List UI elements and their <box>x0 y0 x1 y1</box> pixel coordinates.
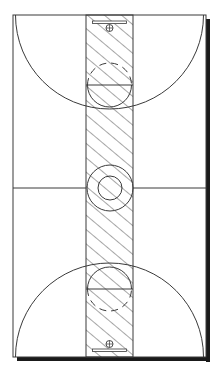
court-shadow-bottom <box>17 357 210 361</box>
basketball-court-diagram <box>0 0 220 380</box>
hatched-lane <box>86 15 133 357</box>
backboard-bottom <box>93 349 127 352</box>
court-shadow-right <box>206 19 210 362</box>
court-svg <box>0 0 220 380</box>
backboard-top <box>93 21 127 24</box>
